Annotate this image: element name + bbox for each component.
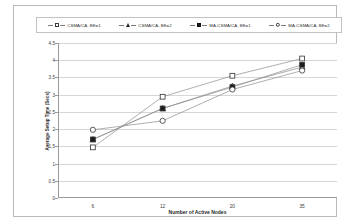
series-line [93, 67, 302, 139]
y-tick-mark [55, 164, 58, 165]
legend-label: MA-CSMA/CA, BE=1 [209, 23, 250, 28]
y-tick-label: 3.5 [40, 75, 55, 80]
y-tick-label: 2 [40, 127, 55, 132]
data-point-marker [300, 62, 305, 67]
y-tick-label: 0.5 [40, 178, 55, 183]
y-tick-label: 4.5 [40, 41, 55, 46]
data-point-marker [230, 87, 235, 92]
y-tick-mark [55, 95, 58, 96]
chart-figure: CSMA/CA, BE=1 CSMA/CA, BE=2 MA-CSMA/CA, … [0, 0, 350, 224]
square-open-marker-icon [48, 21, 65, 29]
data-point-marker [160, 94, 165, 99]
y-tick-mark [55, 112, 58, 113]
legend-label: CSMA/CA, BE=1 [67, 23, 100, 28]
y-tick-label: 4 [40, 58, 55, 63]
y-tick-label: 1.5 [40, 144, 55, 149]
legend-item-csma-ca-be1[interactable]: CSMA/CA, BE=1 [48, 21, 100, 29]
data-point-marker [90, 127, 95, 132]
chart-legend: CSMA/CA, BE=1 CSMA/CA, BE=2 MA-CSMA/CA, … [36, 17, 342, 33]
triangle-open-marker-icon [119, 21, 136, 29]
chart-frame: CSMA/CA, BE=1 CSMA/CA, BE=2 MA-CSMA/CA, … [13, 5, 337, 217]
circle-open-marker-icon [269, 21, 286, 29]
data-point-marker [90, 145, 95, 150]
series-lines [58, 43, 337, 198]
data-point-marker [300, 56, 305, 61]
series-line [93, 59, 302, 148]
data-point-marker [230, 73, 235, 78]
legend-label: CSMA/CA, BE=2 [138, 23, 171, 28]
data-point-marker [160, 118, 165, 123]
legend-item-ma-csma-ca-be2[interactable]: MA-CSMA/CA, BE=2 [269, 21, 329, 29]
y-tick-mark [55, 60, 58, 61]
x-axis-title: Number of Active Nodes [58, 209, 337, 215]
y-tick-mark [55, 129, 58, 130]
square-filled-marker-icon [190, 21, 207, 29]
y-tick-mark [55, 77, 58, 78]
y-axis-tick-labels: 00.511.522.533.544.5 [40, 43, 55, 198]
y-tick-mark [55, 181, 58, 182]
data-point-marker [160, 106, 165, 111]
data-point-marker [90, 137, 95, 142]
data-point-marker [300, 68, 305, 73]
y-tick-label: 2.5 [40, 109, 55, 114]
y-tick-label: 1 [40, 161, 55, 166]
y-tick-label: 0 [40, 196, 55, 201]
y-tick-label: 3 [40, 92, 55, 97]
y-tick-mark [55, 198, 58, 199]
legend-label: MA-CSMA/CA, BE=2 [288, 23, 329, 28]
y-tick-mark [55, 146, 58, 147]
plot-area-wrapper [58, 43, 337, 198]
y-tick-mark [55, 43, 58, 44]
legend-item-ma-csma-ca-be1[interactable]: MA-CSMA/CA, BE=1 [190, 21, 250, 29]
legend-item-csma-ca-be2[interactable]: CSMA/CA, BE=2 [119, 21, 171, 29]
series-line [93, 71, 302, 130]
